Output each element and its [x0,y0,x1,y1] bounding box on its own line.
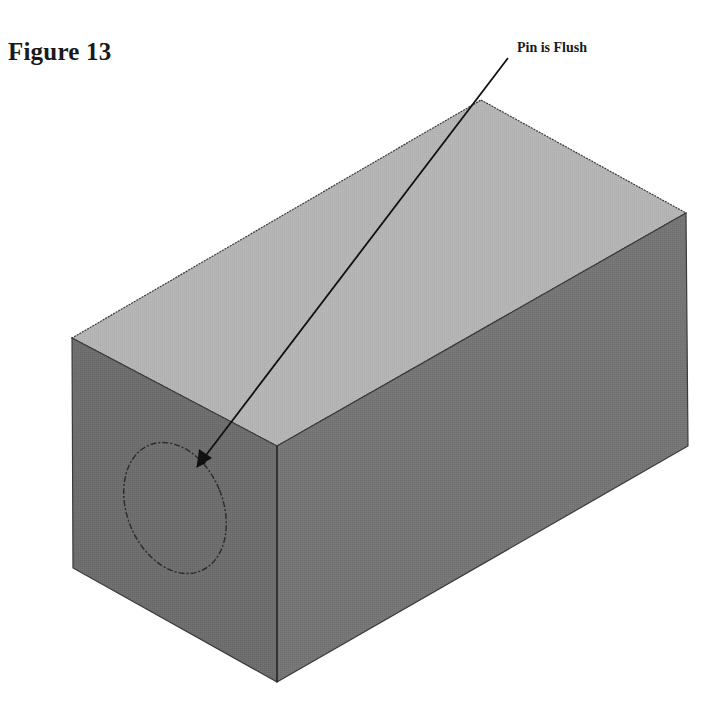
isometric-block-drawing [0,0,723,714]
